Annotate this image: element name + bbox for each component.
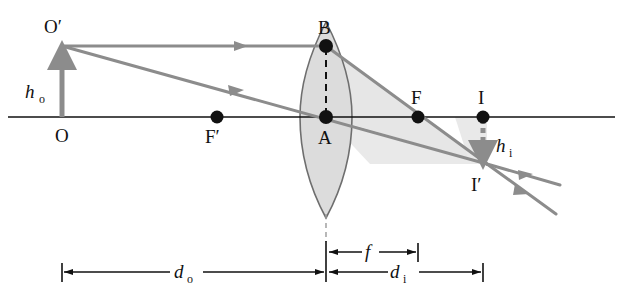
point-dot-I bbox=[477, 111, 490, 124]
dimension-d-o: d o bbox=[64, 261, 324, 286]
label-I-prime: I′ bbox=[471, 174, 481, 195]
label-h-i: h i bbox=[496, 135, 513, 160]
parallel-ray-arrowhead-2 bbox=[513, 184, 529, 195]
point-dot-F bbox=[412, 111, 425, 124]
label-F-prime: F′ bbox=[205, 126, 220, 147]
label-I: I bbox=[478, 87, 484, 108]
dimension-d-i: d i bbox=[329, 261, 481, 286]
label-O: O bbox=[55, 125, 69, 146]
point-dot-A bbox=[319, 110, 333, 124]
label-F: F bbox=[411, 87, 422, 108]
dimension-f: f bbox=[329, 241, 416, 262]
label-A: A bbox=[318, 127, 332, 148]
label-h-i-subscript: i bbox=[509, 146, 513, 160]
label-h-i-symbol: h bbox=[496, 135, 506, 156]
label-d-o-symbol: d bbox=[174, 261, 184, 282]
label-h-o: h o bbox=[25, 81, 45, 106]
label-d-o-subscript: o bbox=[187, 272, 193, 286]
label-h-o-subscript: o bbox=[39, 92, 45, 106]
center-ray-incident bbox=[62, 46, 487, 164]
label-d-i-symbol: d bbox=[390, 261, 400, 282]
point-dot-F-prime bbox=[211, 111, 224, 124]
label-d-i-subscript: i bbox=[403, 272, 407, 286]
label-f-symbol: f bbox=[365, 241, 373, 262]
parallel-ray-arrowhead-1 bbox=[234, 41, 248, 51]
point-dot-B bbox=[319, 39, 333, 53]
label-h-o-symbol: h bbox=[25, 81, 35, 102]
ray-diagram-canvas: O′ O F′ A B F I I′ h o h i d o f d i bbox=[0, 0, 623, 307]
center-ray-arrowhead-2 bbox=[518, 170, 533, 180]
optics-ray-diagram: O′ O F′ A B F I I′ h o h i d o f d i bbox=[0, 0, 623, 307]
label-B: B bbox=[318, 17, 331, 38]
dimension-ticks bbox=[62, 241, 483, 282]
label-O-prime: O′ bbox=[44, 16, 62, 37]
